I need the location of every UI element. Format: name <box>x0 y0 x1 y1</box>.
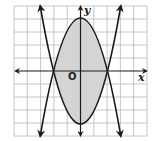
coordinate-graph: y x O <box>0 0 153 141</box>
origin-label: O <box>68 71 77 82</box>
x-axis-label: x <box>137 71 145 84</box>
